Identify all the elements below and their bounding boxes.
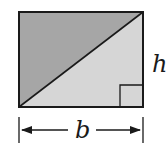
arrow-right-icon xyxy=(130,126,141,134)
arrow-left-icon xyxy=(21,126,32,134)
rectangle-triangle-diagram: h b xyxy=(0,0,168,143)
height-label: h xyxy=(152,50,167,78)
base-label: b xyxy=(75,116,90,143)
